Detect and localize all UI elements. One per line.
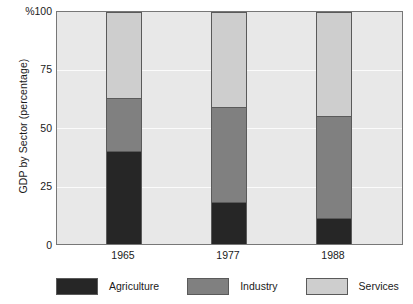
bar-segment-1988-industry[interactable] <box>316 117 352 219</box>
bar-1965[interactable] <box>106 12 142 244</box>
legend-swatch-industry <box>187 278 229 295</box>
bar-segment-1965-agriculture[interactable] <box>106 152 142 244</box>
y-tick-label-25: 25 <box>0 181 52 192</box>
y-tick-label-0: 0 <box>0 240 52 251</box>
plot-area <box>56 11 403 245</box>
chart-legend: Agriculture Industry Services <box>56 276 408 296</box>
bar-1988[interactable] <box>316 12 352 244</box>
legend-item-agriculture[interactable]: Agriculture <box>56 278 159 295</box>
bar-segment-1977-agriculture[interactable] <box>211 203 247 244</box>
legend-label-agriculture: Agriculture <box>109 280 159 292</box>
x-tick-label-1965: 1965 <box>83 249 163 261</box>
chart-figure: GDP by Sector (percentage) %100 75 50 25… <box>0 0 413 304</box>
legend-label-industry: Industry <box>240 280 277 292</box>
x-tick-label-1988: 1988 <box>293 249 373 261</box>
bar-segment-1965-services[interactable] <box>106 12 142 99</box>
x-tick-label-1977: 1977 <box>188 249 268 261</box>
legend-label-services: Services <box>359 280 399 292</box>
legend-swatch-agriculture <box>56 278 98 295</box>
y-tick-label-100: %100 <box>0 6 52 17</box>
bar-segment-1988-agriculture[interactable] <box>316 219 352 244</box>
legend-item-industry[interactable]: Industry <box>187 278 277 295</box>
y-tick-label-75: 75 <box>0 64 52 75</box>
legend-item-services[interactable]: Services <box>306 278 399 295</box>
bar-segment-1988-services[interactable] <box>316 12 352 117</box>
y-tick-label-50: 50 <box>0 123 52 134</box>
bar-segment-1977-industry[interactable] <box>211 108 247 203</box>
legend-swatch-services <box>306 278 348 295</box>
bar-1977[interactable] <box>211 12 247 244</box>
bar-segment-1965-industry[interactable] <box>106 99 142 153</box>
bar-segment-1977-services[interactable] <box>211 12 247 108</box>
